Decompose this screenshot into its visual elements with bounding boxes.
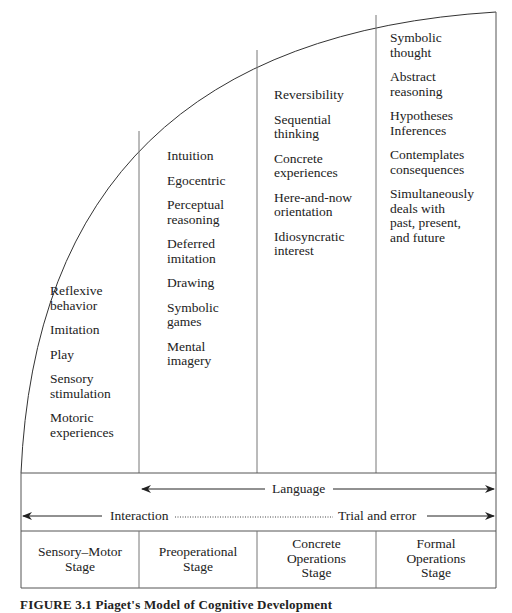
item: Drawing: [167, 276, 225, 291]
item: Contemplates consequences: [390, 148, 474, 177]
stage-sensory-motor: Sensory–Motor Stage: [21, 545, 139, 574]
stage-preoperational: Preoperational Stage: [139, 545, 257, 574]
stage-formal-operations: Formal Operations Stage: [376, 537, 496, 581]
language-label: Language: [268, 481, 329, 497]
item: Idiosyncratic interest: [274, 230, 352, 259]
item: Deferred imitation: [167, 237, 225, 266]
item: Symbolic thought: [390, 31, 474, 60]
item: Hypotheses Inferences: [390, 109, 474, 138]
interaction-label: Interaction: [106, 508, 172, 524]
item: Play: [50, 348, 114, 363]
item: Here-and-now orientation: [274, 191, 352, 220]
column-sensory-motor: Reflexive behavior Imitation Play Sensor…: [50, 284, 114, 450]
item: Simultaneously deals with past, present,…: [390, 187, 474, 245]
item: Egocentric: [167, 174, 225, 189]
stage-concrete-operations: Concrete Operations Stage: [257, 537, 376, 581]
item: Reflexive behavior: [50, 284, 114, 313]
column-formal-operations: Symbolic thought Abstract reasoning Hypo…: [390, 31, 474, 255]
item: Symbolic games: [167, 301, 225, 330]
item: Mental imagery: [167, 340, 225, 369]
trial-and-error-label: Trial and error: [334, 508, 420, 524]
column-preoperational: Intuition Egocentric Perceptual reasonin…: [167, 149, 225, 379]
item: Concrete experiences: [274, 152, 352, 181]
item: Reversibility: [274, 88, 352, 103]
item: Intuition: [167, 149, 225, 164]
item: Sequential thinking: [274, 113, 352, 142]
item: Imitation: [50, 323, 114, 338]
item: Motoric experiences: [50, 411, 114, 440]
item: Abstract reasoning: [390, 70, 474, 99]
figure-caption: FIGURE 3.1 Piaget's Model of Cognitive D…: [20, 597, 332, 613]
item: Sensory stimulation: [50, 372, 114, 401]
item: Perceptual reasoning: [167, 198, 225, 227]
column-concrete-operations: Reversibility Sequential thinking Concre…: [274, 88, 352, 269]
